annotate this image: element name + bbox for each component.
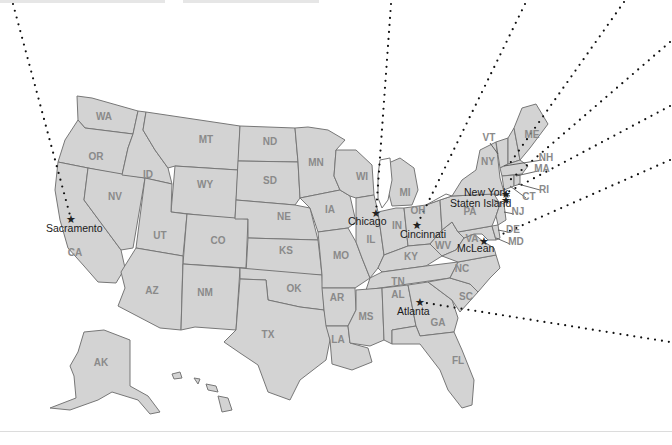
state-label-tn: TN — [391, 276, 404, 287]
state-label-ky: KY — [404, 251, 418, 262]
state-label-wi: WI — [356, 171, 368, 182]
state-label-wv: WV — [435, 240, 451, 251]
state-label-vt: VT — [483, 132, 496, 143]
state-label-ks: KS — [279, 245, 293, 256]
state-label-wy: WY — [197, 179, 213, 190]
state-label-mi: MI — [399, 187, 410, 198]
state-label-md: MD — [508, 236, 524, 247]
state-label-or: OR — [89, 151, 105, 162]
state-label-ut: UT — [153, 230, 166, 241]
leader-sacramento — [13, 4, 71, 219]
state-label-ga: GA — [431, 317, 446, 328]
office-label: Staten Island — [450, 197, 511, 209]
state-label-de: DE — [506, 224, 520, 235]
state-label-me: ME — [525, 129, 540, 140]
office-staten-island[interactable]: ★Staten Island — [450, 194, 511, 209]
office-label: McLean — [457, 242, 495, 254]
state-label-ca: CA — [68, 247, 82, 258]
state-label-ne: NE — [277, 211, 291, 222]
state-shapes — [50, 96, 548, 414]
state-label-mt: MT — [199, 134, 213, 145]
state-label-ma: MA — [534, 163, 550, 174]
us-map: WAORCANVIDMTWYUTCOAZNMNDSDNEKSOKTXMNIAMO… — [0, 0, 672, 445]
state-hi-4[interactable] — [218, 396, 232, 412]
state-label-co: CO — [211, 235, 226, 246]
state-label-mo: MO — [333, 250, 349, 261]
state-label-az: AZ — [145, 285, 158, 296]
office-label: Sacramento — [46, 222, 103, 234]
state-label-nh: NH — [539, 152, 553, 163]
state-label-mn: MN — [308, 157, 324, 168]
state-label-al: AL — [391, 289, 404, 300]
state-label-nc: NC — [455, 263, 469, 274]
state-label-ct: CT — [522, 191, 535, 202]
office-label: Atlanta — [397, 305, 430, 317]
state-label-nm: NM — [197, 287, 213, 298]
state-fl[interactable] — [392, 326, 474, 408]
state-label-ia: IA — [325, 204, 335, 215]
state-label-il: IL — [367, 234, 376, 245]
state-label-ok: OK — [287, 283, 303, 294]
state-label-fl: FL — [452, 355, 464, 366]
office-label: Cincinnati — [400, 228, 446, 240]
state-label-ar: AR — [330, 292, 345, 303]
state-wy[interactable] — [171, 166, 238, 219]
state-label-oh: OH — [411, 205, 426, 216]
state-label-ny: NY — [481, 156, 495, 167]
state-label-nv: NV — [108, 191, 122, 202]
state-label-nd: ND — [263, 136, 277, 147]
state-label-id: ID — [143, 169, 153, 180]
state-label-wa: WA — [96, 111, 112, 122]
state-label-tx: TX — [262, 329, 275, 340]
state-label-nj: NJ — [512, 206, 525, 217]
state-label-ms: MS — [359, 311, 374, 322]
state-label-sc: SC — [459, 291, 473, 302]
state-label-ak: AK — [94, 357, 109, 368]
state-hi-1[interactable] — [172, 372, 182, 379]
office-label: Chicago — [348, 215, 387, 227]
state-ak[interactable] — [50, 330, 160, 414]
bottom-divider — [0, 431, 672, 432]
state-label-ri: RI — [539, 184, 549, 195]
lake-michigan — [378, 158, 392, 208]
state-label-sd: SD — [263, 175, 277, 186]
state-hi-2[interactable] — [194, 378, 200, 384]
state-hi-3[interactable] — [206, 384, 218, 392]
state-label-la: LA — [331, 334, 344, 345]
